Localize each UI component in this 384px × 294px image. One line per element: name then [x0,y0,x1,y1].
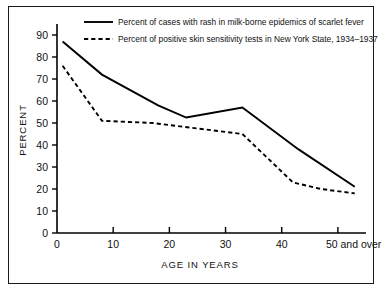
x-tick-label-0: 0 [54,238,60,250]
series-group [63,42,355,194]
series-line-1 [63,66,355,194]
legend: Percent of cases with rash in milk-borne… [84,17,378,44]
series-line-0 [63,42,355,187]
y-tick-group: 0102030405060708090 [36,29,57,239]
x-tick-label-3: 30 [220,238,232,250]
chart-figure: 0102030405060708090 01020304050 and over… [0,0,384,294]
y-tick-label-0: 0 [42,227,48,239]
legend-label-0: Percent of cases with rash in milk-borne… [118,17,364,27]
x-tick-label-1: 10 [107,238,119,250]
y-tick-label-9: 90 [36,29,48,41]
legend-label-1: Percent of positive skin sensitivity tes… [118,34,378,44]
x-tick-label-2: 20 [164,238,176,250]
y-tick-label-8: 80 [36,51,48,63]
line-chart: 0102030405060708090 01020304050 and over… [0,0,384,294]
y-tick-label-2: 20 [36,183,48,195]
x-tick-label-4: 40 [276,238,288,250]
axes-group [57,24,366,233]
y-tick-label-6: 60 [36,95,48,107]
y-tick-label-5: 50 [36,117,48,129]
y-tick-label-4: 40 [36,139,48,151]
y-tick-label-7: 70 [36,73,48,85]
x-tick-label-5: 50 and over [326,238,382,250]
y-tick-label-1: 10 [36,205,48,217]
y-axis-title: PERCENT [17,104,28,156]
x-tick-group: 01020304050 and over [54,227,382,250]
x-axis-title: AGE IN YEARS [161,259,239,270]
y-tick-label-3: 30 [36,161,48,173]
